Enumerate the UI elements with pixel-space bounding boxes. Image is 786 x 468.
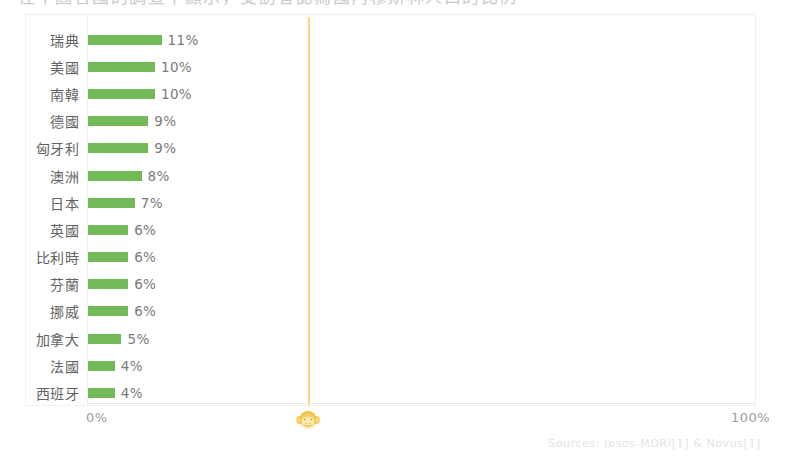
bar-category-label: 瑞典 <box>26 30 79 50</box>
bar-track: 6% <box>88 225 156 235</box>
bar-value-label: 9% <box>154 113 176 129</box>
bar-value-label: 10% <box>161 59 192 75</box>
bar-fill <box>88 198 135 208</box>
bar-track: 7% <box>88 198 163 208</box>
bar-category-label: 英國 <box>26 220 79 240</box>
bar-chart: 瑞典11%美國10%南韓10%德國9%匈牙利9%澳洲8%日本7%英國6%比利時6… <box>25 14 756 406</box>
bar-track: 4% <box>88 388 143 398</box>
clipped-header-strip: 在下圖各國的調查中顯示，受訪者認為國內穆斯林人口的比例 <box>0 0 786 12</box>
bar-track: 9% <box>88 143 176 153</box>
bar-fill <box>88 171 142 181</box>
bar-fill <box>88 225 128 235</box>
bar-value-label: 6% <box>134 303 156 319</box>
bar-row: 挪威6% <box>26 298 755 325</box>
bar-category-label: 芬蘭 <box>26 274 79 294</box>
bar-row: 法國4% <box>26 352 755 379</box>
bar-fill <box>88 388 115 398</box>
bar-row: 匈牙利9% <box>26 135 755 162</box>
bar-fill <box>88 116 148 126</box>
bar-value-label: 4% <box>121 358 143 374</box>
bar-value-label: 6% <box>134 222 156 238</box>
bar-track: 6% <box>88 306 156 316</box>
bar-category-label: 加拿大 <box>26 329 79 349</box>
bar-category-label: 澳洲 <box>26 166 79 186</box>
bar-category-label: 德國 <box>26 111 79 131</box>
bar-fill <box>88 89 155 99</box>
bar-track: 8% <box>88 171 170 181</box>
bar-row: 美國10% <box>26 53 755 80</box>
bar-value-label: 6% <box>134 276 156 292</box>
bar-row: 日本7% <box>26 189 755 216</box>
bar-row: 澳洲8% <box>26 162 755 189</box>
bar-value-label: 6% <box>134 249 156 265</box>
bar-row: 瑞典11% <box>26 26 755 53</box>
category-axis-line <box>87 403 756 404</box>
bar-track: 4% <box>88 361 143 371</box>
bar-value-label: 4% <box>121 385 143 401</box>
bar-track: 10% <box>88 62 192 72</box>
bar-value-label: 9% <box>154 140 176 156</box>
bar-row: 芬蘭6% <box>26 271 755 298</box>
bar-category-label: 日本 <box>26 193 79 213</box>
bar-fill <box>88 279 128 289</box>
bar-row: 南韓10% <box>26 80 755 107</box>
bar-category-label: 西班牙 <box>26 383 79 403</box>
bar-fill <box>88 252 128 262</box>
bar-category-label: 挪威 <box>26 301 79 321</box>
clipped-header-text: 在下圖各國的調查中顯示，受訪者認為國內穆斯林人口的比例 <box>18 0 518 8</box>
bar-track: 11% <box>88 35 199 45</box>
bar-track: 10% <box>88 89 192 99</box>
bar-fill <box>88 334 121 344</box>
bar-category-label: 南韓 <box>26 84 79 104</box>
bar-fill <box>88 143 148 153</box>
bar-value-label: 5% <box>127 331 149 347</box>
bar-fill <box>88 306 128 316</box>
axis-tick-max: 100% <box>731 410 770 425</box>
bar-track: 5% <box>88 334 150 344</box>
bar-value-label: 11% <box>168 32 199 48</box>
bar-category-label: 比利時 <box>26 247 79 267</box>
bar-row: 比利時6% <box>26 244 755 271</box>
bar-fill <box>88 361 115 371</box>
bar-fill <box>88 62 155 72</box>
bar-category-label: 法國 <box>26 356 79 376</box>
bar-fill <box>88 35 162 45</box>
plot-area: 瑞典11%美國10%南韓10%德國9%匈牙利9%澳洲8%日本7%英國6%比利時6… <box>26 15 755 405</box>
bar-category-label: 美國 <box>26 57 79 77</box>
bar-value-label: 10% <box>161 86 192 102</box>
bar-track: 9% <box>88 116 176 126</box>
source-credit: Sources: Ipsos-MORI[1] & Novus[1] <box>0 437 761 450</box>
bar-track: 6% <box>88 252 156 262</box>
monkey-icon <box>296 409 320 431</box>
bar-row-list: 瑞典11%美國10%南韓10%德國9%匈牙利9%澳洲8%日本7%英國6%比利時6… <box>26 26 755 407</box>
bar-row: 加拿大5% <box>26 325 755 352</box>
bar-track: 6% <box>88 279 156 289</box>
bar-category-label: 匈牙利 <box>26 138 79 158</box>
bar-row: 英國6% <box>26 216 755 243</box>
bar-value-label: 7% <box>141 195 163 211</box>
axis-tick-min: 0% <box>86 410 108 425</box>
bar-row: 德國9% <box>26 108 755 135</box>
bar-value-label: 8% <box>148 168 170 184</box>
